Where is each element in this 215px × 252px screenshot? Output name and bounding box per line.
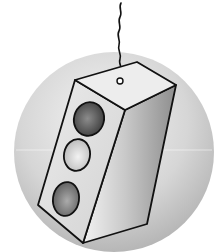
traffic-light-illustration [0, 0, 215, 252]
illustration-canvas [0, 0, 215, 252]
hanging-ring-front [117, 78, 123, 84]
